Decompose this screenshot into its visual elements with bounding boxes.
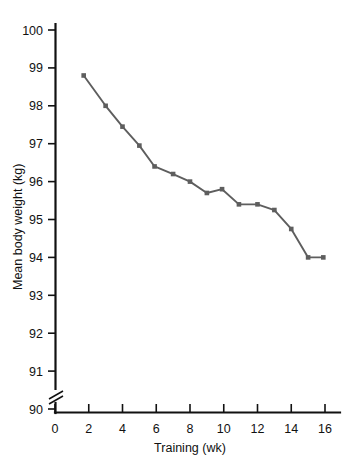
x-tick-label: 10 — [217, 422, 231, 436]
y-tick-label: 95 — [29, 213, 43, 227]
y-tick-label: 93 — [29, 289, 43, 303]
series-line — [84, 75, 324, 257]
data-point-marker — [255, 202, 260, 207]
x-tick-label: 8 — [187, 422, 194, 436]
x-tick-label: 4 — [119, 422, 126, 436]
data-point-marker — [205, 191, 210, 196]
x-tick-label: 16 — [318, 422, 332, 436]
y-tick-label: 92 — [29, 327, 43, 341]
data-point-marker — [220, 187, 225, 192]
data-point-marker — [272, 208, 277, 213]
y-tick-label: 96 — [29, 175, 43, 189]
data-point-marker — [152, 164, 157, 169]
x-tick-label: 6 — [153, 422, 160, 436]
data-point-marker — [306, 255, 311, 260]
y-tick-label: 98 — [29, 99, 43, 113]
data-point-marker — [81, 73, 86, 78]
data-point-marker — [103, 104, 108, 109]
data-point-marker — [171, 172, 176, 177]
x-tick-label: 12 — [251, 422, 265, 436]
y-tick-label: 90 — [29, 403, 43, 417]
y-tick-label: 94 — [29, 251, 43, 265]
data-point-marker — [321, 255, 326, 260]
y-tick-label: 99 — [29, 61, 43, 75]
data-point-marker — [137, 143, 142, 148]
data-point-marker — [120, 124, 125, 129]
data-point-marker — [289, 227, 294, 232]
chart-figure: Mean body weight (kg) Training (wk) 9091… — [0, 0, 355, 476]
x-tick-label: 2 — [85, 422, 92, 436]
y-axis-title: Mean body weight (kg) — [11, 164, 25, 290]
y-axis-title-group: Mean body weight (kg) — [11, 164, 25, 290]
y-tick-label: 97 — [29, 137, 43, 151]
line-chart-plot: Mean body weight (kg) Training (wk) 9091… — [0, 0, 355, 476]
y-axis-ticks: 90919293949596979899100 — [22, 24, 56, 417]
y-tick-label: 100 — [22, 24, 43, 38]
y-tick-label: 91 — [29, 365, 43, 379]
data-point-marker — [237, 202, 242, 207]
data-series-group — [81, 73, 325, 260]
x-tick-label: 14 — [284, 422, 298, 436]
x-axis-ticks: 0246810121416 — [52, 404, 332, 436]
data-point-marker — [188, 179, 193, 184]
x-axis-title: Training (wk) — [154, 441, 226, 455]
x-tick-label: 0 — [52, 422, 59, 436]
